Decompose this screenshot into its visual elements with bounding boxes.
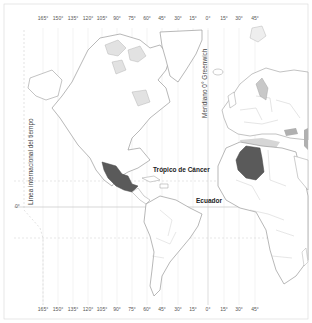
top-tick: 0° — [206, 15, 211, 21]
map-graphic — [0, 0, 312, 323]
alaska — [28, 70, 62, 100]
bottom-tick: 30° — [235, 306, 243, 312]
iceland — [213, 69, 223, 75]
bottom-tick: 165° — [38, 306, 48, 312]
bottom-tick: 135° — [68, 306, 78, 312]
top-tick: 30° — [235, 15, 243, 21]
world-map: 165° 150° 135° 120° 105° 90° 75° 60° 45°… — [0, 0, 312, 323]
bottom-tick: 15° — [189, 306, 197, 312]
date-line-label: Línea internacional del tiempo — [27, 118, 34, 205]
top-tick: 150° — [53, 15, 63, 21]
bottom-tick: 150° — [53, 306, 63, 312]
bottom-tick: 15° — [220, 306, 228, 312]
top-tick: 15° — [220, 15, 228, 21]
top-tick: 15° — [189, 15, 197, 21]
top-tick: 75° — [128, 15, 136, 21]
equator-label: Ecuador — [196, 197, 222, 204]
top-tick: 30° — [174, 15, 182, 21]
top-tick: 165° — [38, 15, 48, 21]
central-america — [132, 188, 150, 204]
north-america — [52, 34, 170, 186]
svalbard — [250, 26, 266, 42]
equator-tick-label: 0° — [15, 203, 20, 209]
top-tick: 60° — [143, 15, 151, 21]
bottom-tick: 90° — [113, 306, 121, 312]
bottom-tick: 30° — [174, 306, 182, 312]
caribbean — [142, 176, 168, 188]
greenwich-label: Meridiano 0° Greenwich — [201, 49, 208, 118]
caspian-sea — [304, 128, 308, 150]
bottom-tick: 45° — [158, 306, 166, 312]
tropic-of-cancer-label: Trópico de Cáncer — [153, 166, 210, 173]
bottom-tick: 105° — [97, 306, 107, 312]
bottom-tick: 120° — [83, 306, 93, 312]
top-tick: 120° — [83, 15, 93, 21]
bottom-tick: 60° — [143, 306, 151, 312]
bottom-tick: 75° — [128, 306, 136, 312]
top-tick: 135° — [68, 15, 78, 21]
top-tick: 105° — [97, 15, 107, 21]
greenland — [160, 30, 202, 82]
top-tick: 45° — [158, 15, 166, 21]
south-america — [144, 196, 202, 296]
top-tick: 90° — [113, 15, 121, 21]
bottom-tick: 0° — [206, 306, 211, 312]
top-tick: 45° — [251, 15, 259, 21]
bottom-tick: 45° — [251, 306, 259, 312]
